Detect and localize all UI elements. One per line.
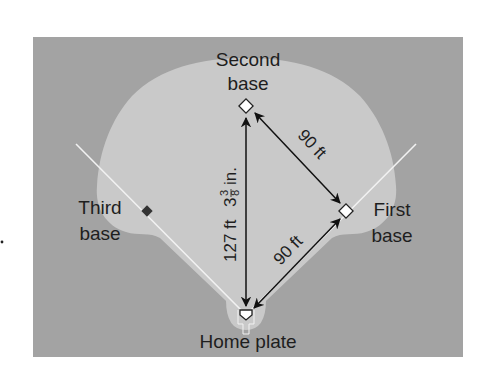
svg-text:3: 3 <box>221 198 240 207</box>
first-base-label-line2: base <box>371 225 412 246</box>
margin-dot <box>1 241 4 244</box>
svg-text:127 ft: 127 ft <box>221 219 240 262</box>
svg-text:in.: in. <box>221 167 240 185</box>
third-base-label-line2: base <box>79 223 120 244</box>
baseball-diamond-diagram: Second base Third base First base Home p… <box>0 0 489 384</box>
second-base-label-line1: Second <box>216 49 280 70</box>
home-plate-label: Home plate <box>199 331 296 352</box>
second-base-label-line2: base <box>227 73 268 94</box>
first-base-label-line1: First <box>374 199 412 220</box>
third-base-label-line1: Third <box>78 197 121 218</box>
svg-text:8: 8 <box>229 190 241 196</box>
